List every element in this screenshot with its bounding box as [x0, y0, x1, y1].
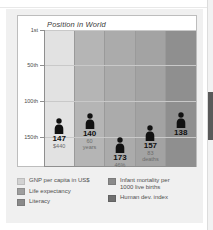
y-axis-tick	[40, 65, 44, 66]
gridline	[44, 101, 196, 102]
scrollbar-track[interactable]	[207, 0, 213, 230]
rank-value: 173	[105, 153, 135, 162]
gridline	[44, 65, 196, 66]
y-axis-tick-label: 1st	[31, 27, 38, 33]
legend-swatch	[17, 199, 25, 206]
person-icon	[85, 113, 95, 129]
data-column[interactable]: 147$440	[44, 118, 74, 149]
y-axis-tick	[40, 101, 44, 102]
legend-item[interactable]: Literacy	[17, 198, 108, 206]
rank-value: 140	[75, 129, 105, 138]
figure-card: Position in World 1st50th100th150th 147$…	[6, 9, 203, 223]
legend-column-right: Infant mortality per 1000 live birthsHum…	[108, 177, 199, 209]
person-icon	[176, 112, 186, 128]
rank-sublabel: 60 years	[75, 138, 105, 150]
legend-label: Infant mortality per 1000 live births	[120, 177, 170, 191]
rank-sublabel: 46%	[105, 162, 135, 168]
rank-sublabel: 83 deaths	[135, 150, 165, 162]
data-column[interactable]: 14060 years	[75, 113, 105, 150]
y-axis-tick-label: 100th	[24, 98, 38, 104]
chart-panel: Position in World 1st50th100th150th 147$…	[17, 15, 197, 167]
person-icon	[54, 118, 64, 134]
legend-label: Life expectancy	[29, 188, 71, 195]
y-axis-tick	[40, 30, 44, 31]
category-band	[166, 30, 196, 166]
data-column[interactable]: 15783 deaths	[135, 125, 165, 162]
legend-label: GNP per capita in US$	[29, 177, 90, 184]
person-icon-holder	[166, 112, 196, 128]
legend-swatch	[108, 195, 116, 202]
chart-title: Position in World	[47, 20, 106, 29]
legend-item[interactable]: GNP per capita in US$	[17, 177, 108, 185]
person-icon-holder	[75, 113, 105, 129]
legend-item[interactable]: Infant mortality per 1000 live births	[108, 177, 199, 191]
y-axis-tick-label: 50th	[27, 62, 38, 68]
screenshot-root: Position in World 1st50th100th150th 147$…	[0, 0, 213, 230]
rank-value: 138	[166, 128, 196, 137]
rank-value: 157	[135, 141, 165, 150]
legend-column-left: GNP per capita in US$Life expectancyLite…	[17, 177, 108, 209]
y-axis-tick-label: 150th	[24, 134, 38, 140]
legend-item[interactable]: Life expectancy	[17, 188, 108, 196]
page-top-strip	[0, 0, 213, 8]
legend-label: Human dev. index	[120, 194, 168, 201]
legend-swatch	[108, 178, 116, 185]
person-icon	[115, 137, 125, 153]
person-icon-holder	[135, 125, 165, 141]
legend-swatch	[17, 178, 25, 185]
data-column[interactable]: 138	[166, 112, 196, 137]
person-icon	[145, 125, 155, 141]
scrollbar-thumb[interactable]	[208, 92, 213, 140]
legend-item[interactable]: Human dev. index	[108, 194, 199, 202]
legend-label: Literacy	[29, 198, 50, 205]
legend: GNP per capita in US$Life expectancyLite…	[17, 177, 199, 209]
gridline	[44, 30, 196, 31]
legend-swatch	[17, 188, 25, 195]
person-icon-holder	[105, 137, 135, 153]
person-icon-holder	[44, 118, 74, 134]
rank-sublabel: $440	[44, 143, 74, 149]
rank-value: 147	[44, 134, 74, 143]
data-column[interactable]: 17346%	[105, 137, 135, 168]
